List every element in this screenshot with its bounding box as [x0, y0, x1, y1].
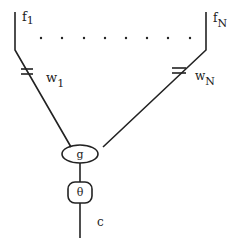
weight-label-1: w1: [46, 70, 64, 90]
input-label-1: f1: [22, 9, 34, 27]
neuron-diagram: f1 w1 fN wN g θ c: [0, 0, 237, 248]
weight-label-n: wN: [195, 69, 215, 88]
aggregator-label: g: [76, 148, 83, 161]
threshold-label: θ: [77, 186, 84, 199]
input-label-n: fN: [213, 11, 227, 30]
ellipsis-dots: [40, 37, 191, 39]
output-label: c: [97, 215, 104, 229]
input-line-n: [103, 12, 206, 147]
